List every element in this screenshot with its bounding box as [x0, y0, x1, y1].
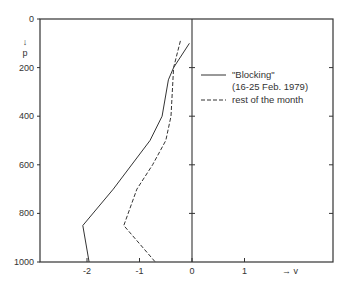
- x-tick-label: 0: [189, 266, 194, 276]
- data-series: [83, 41, 190, 262]
- legend-label-blocking: "Blocking": [232, 69, 275, 80]
- x-axis-ticks: -2-101: [83, 258, 247, 276]
- y-tick-label: 1000: [14, 257, 34, 267]
- x-tick-label: -2: [83, 266, 91, 276]
- legend: "Blocking" (16-25 Feb. 1979) rest of the…: [201, 69, 308, 105]
- y-axis-ticks: 02004006008001000: [14, 14, 333, 267]
- plot-border: [40, 19, 333, 262]
- y-tick-label: 400: [19, 111, 34, 121]
- y-axis-arrow: ↓: [23, 37, 28, 47]
- pressure-velocity-chart: 02004006008001000 -2-101 ↓ p → v "Blocki…: [0, 0, 345, 282]
- x-tick-label: -1: [135, 266, 143, 276]
- legend-label-rest: rest of the month: [232, 94, 303, 105]
- zero-line: [189, 19, 195, 262]
- legend-label-blocking-dates: (16-25 Feb. 1979): [232, 81, 308, 92]
- y-axis-label: p: [22, 48, 27, 58]
- y-tick-label: 200: [19, 63, 34, 73]
- x-axis-label: → v: [282, 266, 299, 276]
- y-tick-label: 800: [19, 208, 34, 218]
- plot-frame: [40, 19, 333, 262]
- y-tick-label: 600: [19, 160, 34, 170]
- x-tick-label: 1: [242, 266, 247, 276]
- series-rest-of-month-line: [124, 41, 181, 262]
- y-tick-label: 0: [29, 14, 34, 24]
